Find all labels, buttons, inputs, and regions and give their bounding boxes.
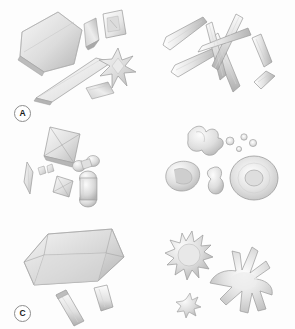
blade-upper-left xyxy=(163,17,207,50)
micro-crystals xyxy=(38,164,54,175)
small-bipyramid xyxy=(53,176,73,197)
small-dumbbell xyxy=(73,156,100,172)
panel-b-illustration xyxy=(148,0,295,112)
panel-e-illustration xyxy=(0,217,148,329)
spindle xyxy=(24,162,33,194)
shell-form xyxy=(166,161,200,191)
spiky-spherulite xyxy=(165,231,213,280)
panel-f: F xyxy=(148,217,295,329)
rod-right xyxy=(94,285,113,311)
panel-c: C xyxy=(0,112,148,217)
panel-f-illustration xyxy=(148,217,295,329)
panel-d: D xyxy=(148,112,295,217)
small-rhombic-plate xyxy=(86,82,114,99)
crystal-morphology-figure: A xyxy=(0,0,295,329)
lobed-aggregate xyxy=(188,126,224,155)
blade-right xyxy=(252,34,272,67)
rod-left xyxy=(56,290,84,326)
blade-lower-left xyxy=(171,47,219,77)
rectangular-plate xyxy=(103,10,126,38)
panel-a: A xyxy=(0,0,148,112)
panel-e: E xyxy=(0,217,148,329)
panel-d-illustration xyxy=(148,112,295,217)
large-dumbbell xyxy=(80,171,98,207)
peanut-form xyxy=(207,167,223,194)
blade-lower-right xyxy=(254,71,275,89)
large-spined-mass xyxy=(210,247,272,313)
disc-with-depression xyxy=(230,156,278,200)
star-rosette xyxy=(99,48,136,88)
panel-a-illustration xyxy=(0,0,148,112)
panel-c-illustration xyxy=(0,112,148,217)
small-spiky-form xyxy=(176,293,201,318)
micro-spheres xyxy=(226,134,257,152)
coffin-lid-crystal xyxy=(24,229,124,285)
large-hexagonal-plate xyxy=(18,12,82,76)
panel-b: B xyxy=(148,0,295,112)
folded-plate xyxy=(84,18,99,50)
large-bipyramid xyxy=(44,127,80,167)
